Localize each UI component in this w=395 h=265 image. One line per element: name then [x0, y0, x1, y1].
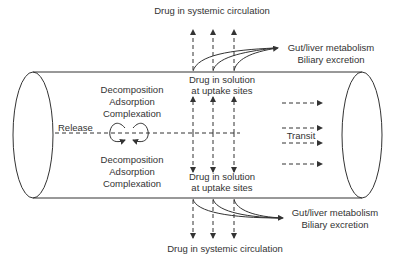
- metabolism-curves-bottom: [193, 199, 283, 218]
- metabolism-label-top-2: Biliary excretion: [297, 54, 364, 65]
- tube-right-end: [342, 72, 382, 198]
- systemic-label-top: Drug in systemic circulation: [154, 5, 270, 16]
- transit-label: Transit: [287, 130, 316, 141]
- release-label: Release: [58, 122, 93, 133]
- systemic-label-bottom: Drug in systemic circulation: [167, 243, 283, 254]
- solution-label-top-1: Drug in solution: [189, 74, 255, 85]
- process-bottom-decomposition: Decomposition: [101, 154, 164, 165]
- solution-label-bottom-2: at uptake sites: [191, 182, 253, 193]
- process-bottom-adsorption: Adsorption: [109, 166, 154, 177]
- process-bottom-complexation: Complexation: [103, 178, 161, 189]
- metabolism-label-bottom-2: Biliary excretion: [301, 219, 368, 230]
- process-top-adsorption: Adsorption: [109, 96, 154, 107]
- loop-left-icon: [110, 123, 125, 141]
- loop-right-icon: [133, 123, 148, 141]
- tube-left-end: [13, 72, 53, 198]
- metabolism-curves-top: [193, 48, 278, 71]
- gi-absorption-diagram: Drug in systemic circulation Gut/liver m…: [0, 0, 395, 265]
- process-loops: [110, 123, 148, 141]
- metabolism-label-top-1: Gut/liver metabolism: [288, 42, 375, 53]
- metabolism-label-bottom-1: Gut/liver metabolism: [292, 207, 379, 218]
- solution-label-top-2: at uptake sites: [191, 85, 253, 96]
- process-top-complexation: Complexation: [103, 108, 161, 119]
- solution-label-bottom-1: Drug in solution: [189, 171, 255, 182]
- process-top-decomposition: Decomposition: [101, 84, 164, 95]
